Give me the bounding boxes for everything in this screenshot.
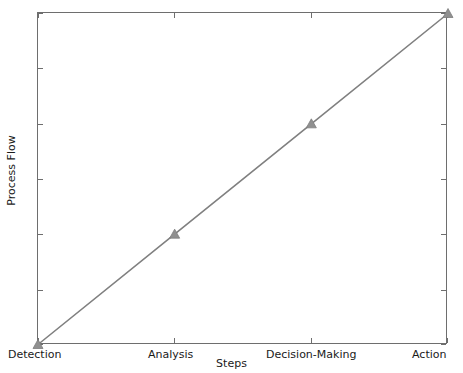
chart-container: Process Flow 4 3.5 3 2.5 2 1.5 1 Detecti… <box>0 0 463 373</box>
x-axis-title: Steps <box>0 358 463 369</box>
series-line <box>38 14 448 345</box>
plot-area <box>37 12 447 344</box>
data-point-marker <box>443 9 453 18</box>
y-axis-title: Process Flow <box>6 101 17 241</box>
data-series-process-flow <box>38 13 448 345</box>
